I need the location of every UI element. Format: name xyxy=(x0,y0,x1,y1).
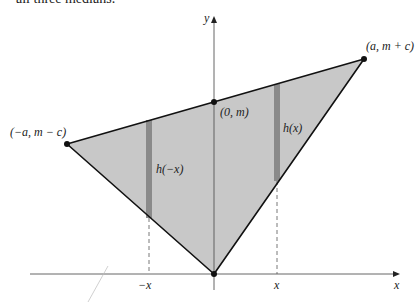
top-right-vertex-label: (a, m + c) xyxy=(366,39,414,53)
y-axis-label: y xyxy=(203,11,210,25)
bar-pos-x-label: h(x) xyxy=(283,121,302,135)
tick-pos-x-label: x xyxy=(273,278,280,292)
top-right-vertex-dot xyxy=(361,56,367,62)
origin-vertex-dot xyxy=(211,271,217,277)
y-intercept-dot xyxy=(211,99,217,105)
bar-neg-x-label: h(−x) xyxy=(156,162,183,176)
bar-neg-x xyxy=(146,120,152,218)
x-axis-arrow-icon xyxy=(393,271,400,277)
triangle-diagram: y x (−a, m − c) (a, m + c) (0, m) h(−x) … xyxy=(0,0,416,302)
bar-pos-x xyxy=(274,84,280,181)
y-axis-arrow-icon xyxy=(211,16,217,23)
left-vertex-dot xyxy=(64,141,70,147)
tick-neg-x-label: −x xyxy=(138,278,152,292)
stray-line xyxy=(88,266,108,302)
triangle-region xyxy=(67,59,364,274)
y-intercept-label: (0, m) xyxy=(220,105,249,119)
left-vertex-label: (−a, m − c) xyxy=(10,125,66,139)
x-axis-label: x xyxy=(393,278,400,292)
